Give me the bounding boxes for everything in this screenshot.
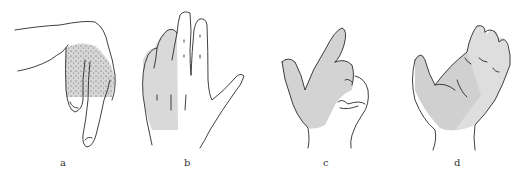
panel-d: d bbox=[395, 0, 531, 178]
panel-label-c: c bbox=[323, 157, 329, 168]
panel-label-a: a bbox=[60, 157, 66, 168]
panel-label-b: b bbox=[184, 157, 190, 168]
panel-label-d: d bbox=[454, 157, 460, 168]
panel-a: a bbox=[0, 0, 140, 178]
panel-c: c bbox=[270, 0, 400, 178]
hand-illustration-c bbox=[270, 0, 400, 178]
hand-illustration-b bbox=[140, 0, 270, 178]
hand-illustration-a bbox=[0, 0, 140, 178]
panel-b: b bbox=[140, 0, 270, 178]
hand-illustration-d bbox=[395, 0, 531, 178]
